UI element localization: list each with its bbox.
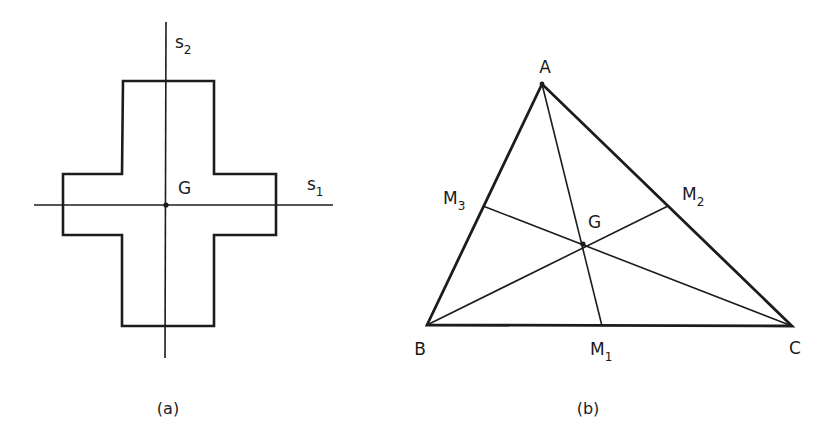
centroid-label-b: G xyxy=(588,212,601,232)
s2-axis xyxy=(165,22,166,358)
centroid-point-a xyxy=(163,202,168,207)
triangle-abc xyxy=(427,84,792,326)
s2-axis-label: s2 xyxy=(175,32,192,57)
s1-axis-label: s1 xyxy=(307,174,324,199)
vertex-a-point xyxy=(540,82,545,87)
caption-a: (a) xyxy=(157,399,179,418)
centroid-label-a: G xyxy=(178,178,191,198)
diagram-canvas: s2 s1 G (a) A B C M1 M2 M3 G xyxy=(0,0,823,446)
figure-a: s2 s1 G (a) xyxy=(34,22,333,418)
median-a-m1 xyxy=(542,84,602,326)
midpoint-m2-label: M2 xyxy=(682,184,704,209)
cross-shape xyxy=(63,81,276,326)
caption-b: (b) xyxy=(577,399,600,418)
figure-b: A B C M1 M2 M3 G (b) xyxy=(414,57,801,418)
median-c-m3 xyxy=(483,206,792,326)
midpoint-m3-label: M3 xyxy=(443,188,465,213)
vertex-a-label: A xyxy=(539,57,551,77)
midpoint-m1-label: M1 xyxy=(590,339,612,364)
vertex-c-label: C xyxy=(789,338,801,358)
median-b-m2 xyxy=(427,206,668,325)
vertex-b-label: B xyxy=(414,339,426,359)
centroid-point-b xyxy=(580,241,585,246)
